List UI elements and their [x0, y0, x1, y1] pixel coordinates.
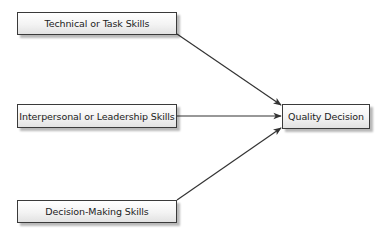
arrow-decisionmaking-to-decision: [177, 128, 281, 200]
arrow-technical-to-decision: [177, 34, 281, 105]
quality-decision-box: Quality Decision: [282, 104, 370, 129]
interpersonal-skills-box: Interpersonal or Leadership Skills: [17, 104, 177, 128]
decision-making-skills-label: Decision-Making Skills: [45, 206, 148, 217]
quality-decision-label: Quality Decision: [288, 111, 364, 122]
technical-skills-box: Technical or Task Skills: [17, 12, 177, 35]
interpersonal-skills-label: Interpersonal or Leadership Skills: [19, 111, 174, 122]
decision-making-skills-box: Decision-Making Skills: [17, 200, 177, 223]
technical-skills-label: Technical or Task Skills: [45, 18, 150, 29]
